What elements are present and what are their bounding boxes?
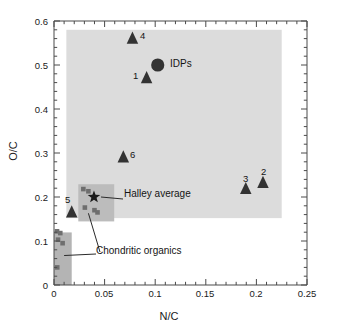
y-tick-label-1: 0.1 — [8, 236, 48, 247]
x-tick-label-1: 0.05 — [84, 288, 124, 299]
y-tick-label-4: 0.4 — [8, 104, 48, 115]
chondritic-square-marker — [86, 189, 91, 194]
y-tick-label-3: 0.3 — [8, 148, 48, 159]
x-axis-title: N/C — [0, 310, 338, 322]
chondritic-square-marker — [83, 205, 88, 210]
point-label-2: 2 — [261, 166, 266, 177]
point-label-1: 1 — [133, 70, 138, 81]
x-tick-label-4: 0.2 — [236, 288, 276, 299]
chondritic-organics-label: Chondritic organics — [96, 245, 182, 256]
chondritic-square-marker — [95, 210, 100, 215]
y-tick-label-2: 0.2 — [8, 192, 48, 203]
y-tick-label-5: 0.5 — [8, 60, 48, 71]
idps-circle-marker — [151, 58, 164, 71]
idps-label: IDPs — [170, 58, 192, 69]
chondritic-square-marker — [60, 241, 65, 246]
y-tick-label-0: 0 — [8, 280, 48, 291]
chondritic-square-marker — [58, 231, 63, 236]
point-label-5: 5 — [65, 194, 70, 205]
scatter-plot — [0, 0, 338, 336]
x-tick-label-2: 0.1 — [135, 288, 175, 299]
halley-average-label: Halley average — [124, 188, 191, 199]
point-label-4: 4 — [140, 30, 145, 41]
x-tick-label-3: 0.15 — [185, 288, 225, 299]
point-label-3: 3 — [243, 173, 248, 184]
chart-canvas: N/C O/C 0 0.05 0.1 0.15 0.2 0.25 0 0.1 0… — [0, 0, 338, 336]
y-tick-label-6: 0.6 — [8, 16, 48, 27]
point-label-6: 6 — [130, 149, 135, 160]
chondritic-square-marker — [81, 187, 86, 192]
x-tick-label-5: 0.25 — [287, 288, 327, 299]
